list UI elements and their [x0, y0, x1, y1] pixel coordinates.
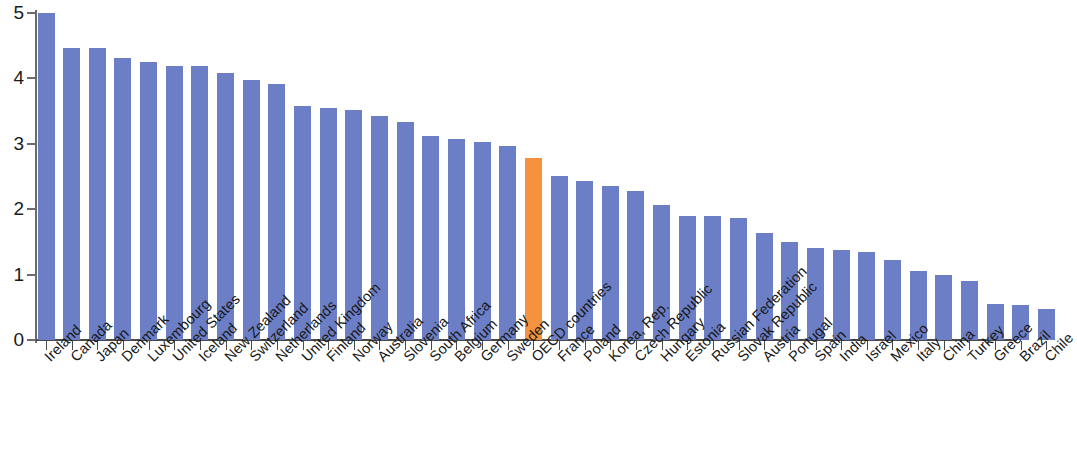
plot-area — [36, 13, 1017, 340]
y-tick — [27, 208, 36, 210]
bar — [89, 48, 106, 340]
bar — [448, 139, 465, 340]
bar — [371, 116, 388, 340]
bar — [525, 158, 542, 340]
bar — [166, 66, 183, 340]
bar — [499, 146, 516, 340]
y-tick — [27, 274, 36, 276]
bar — [422, 136, 439, 340]
y-tick — [27, 143, 36, 145]
y-tick — [27, 77, 36, 79]
bar — [397, 122, 414, 340]
y-tick-label: 5 — [0, 3, 24, 22]
y-tick — [27, 339, 36, 341]
y-tick-label: 0 — [0, 330, 24, 349]
bar — [858, 252, 875, 340]
y-tick-label: 1 — [0, 265, 24, 284]
bar — [38, 13, 55, 340]
bar — [935, 275, 952, 340]
bar — [63, 48, 80, 340]
y-tick-label: 3 — [0, 134, 24, 153]
bar — [602, 186, 619, 340]
bar — [114, 58, 131, 340]
y-tick-label: 4 — [0, 68, 24, 87]
bar — [140, 62, 157, 340]
bar — [833, 250, 850, 340]
y-tick — [27, 12, 36, 14]
y-tick-label: 2 — [0, 199, 24, 218]
bar — [243, 80, 260, 340]
